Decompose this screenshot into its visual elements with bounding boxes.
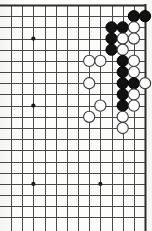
go-board-canvas[interactable] <box>0 0 152 231</box>
go-board[interactable]: Scanned black-and-white go (baduk/weiqi)… <box>0 0 152 231</box>
